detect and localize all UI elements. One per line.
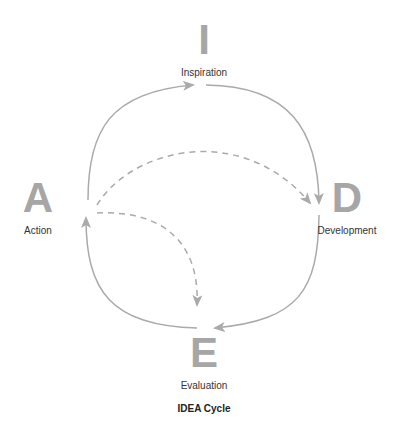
arrow-action-to-evaluation-dashed: [97, 213, 197, 305]
arrow-action-to-inspiration: [88, 85, 193, 200]
node-development: D Development: [287, 180, 407, 237]
node-letter-a: A: [0, 180, 98, 216]
node-evaluation: E Evaluation: [144, 335, 264, 392]
arrow-action-to-development-dashed: [97, 152, 310, 205]
node-label-action: Action: [0, 225, 98, 237]
diagram-caption: IDEA Cycle: [104, 403, 304, 415]
node-action: A Action: [0, 180, 98, 237]
node-letter-d: D: [287, 180, 407, 216]
node-letter-e: E: [144, 335, 264, 371]
node-letter-i: I: [144, 22, 264, 58]
node-inspiration: I Inspiration: [144, 22, 264, 79]
node-label-development: Development: [287, 225, 407, 237]
node-label-inspiration: Inspiration: [144, 67, 264, 79]
arrow-evaluation-to-action: [86, 218, 197, 328]
node-label-evaluation: Evaluation: [144, 380, 264, 392]
